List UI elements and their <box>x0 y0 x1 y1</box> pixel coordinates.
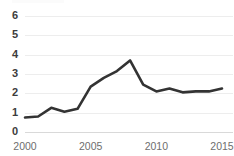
x-tick-label-2010: 2010 <box>145 140 169 152</box>
y-tick-label-6: 6 <box>12 9 18 21</box>
y-tick-label-5: 5 <box>12 28 18 40</box>
x-axis-tick-labels-group: 2000200520102015 <box>13 140 234 152</box>
gridlines-group <box>25 17 233 114</box>
chart-canvas: 0123456 2000200520102015 <box>0 0 234 156</box>
x-tick-label-2005: 2005 <box>79 140 103 152</box>
y-tick-label-4: 4 <box>12 48 19 60</box>
x-tick-label-2015: 2015 <box>210 140 234 152</box>
x-tick-label-2000: 2000 <box>13 140 37 152</box>
y-axis-tick-labels-group: 0123456 <box>12 9 19 137</box>
data-series-line <box>25 60 222 117</box>
y-tick-label-0: 0 <box>12 125 18 137</box>
line-chart: 0123456 2000200520102015 <box>0 0 234 156</box>
y-tick-label-1: 1 <box>12 106 18 118</box>
y-tick-label-2: 2 <box>12 86 18 98</box>
y-tick-label-3: 3 <box>12 67 18 79</box>
